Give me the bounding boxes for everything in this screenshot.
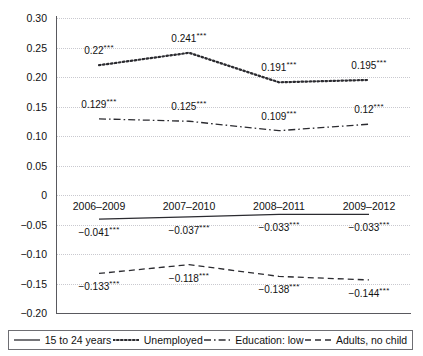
y-axis-tick-label: −0.10 (0, 249, 47, 260)
legend-label: Unemployed (144, 335, 203, 346)
gridline (57, 136, 410, 137)
data-point-label: 0.125*** (171, 102, 206, 112)
x-axis-tick-label: 2009–2012 (343, 201, 396, 212)
legend-item[interactable]: Unemployed (113, 335, 203, 346)
legend-item[interactable]: Adults, no child (305, 335, 407, 346)
data-point-label: −0.118*** (169, 274, 209, 284)
legend-item[interactable]: Education: low (204, 335, 303, 346)
data-point-label: −0.144*** (348, 289, 389, 299)
data-point-label: 0.195*** (351, 61, 386, 71)
data-point-label: −0.033*** (258, 223, 299, 233)
x-axis-tick-label: 2007–2010 (163, 201, 216, 212)
y-axis-tick-label: −0.05 (0, 220, 47, 231)
gridline (57, 18, 410, 19)
legend-label: Education: low (235, 335, 303, 346)
data-point-label: 0.241*** (171, 34, 206, 44)
y-axis-tick-label: −0.15 (0, 279, 47, 290)
data-point-label: −0.033*** (348, 223, 389, 233)
y-axis-line (56, 16, 57, 314)
data-point-label: 0.191*** (261, 63, 296, 73)
data-point-label: 0.109*** (261, 112, 296, 122)
legend-line-icon (14, 335, 40, 345)
y-axis-tick-label: 0.05 (0, 161, 47, 172)
legend-label: 15 to 24 years (45, 335, 112, 346)
x-axis-tick-label: 2006–2009 (73, 201, 126, 212)
gridline (57, 77, 410, 78)
gridline (57, 195, 410, 196)
series-line (99, 265, 369, 280)
series-line (99, 119, 369, 131)
legend-line-icon (204, 335, 230, 345)
chart-figure: 0.300.250.200.150.100.050−0.05−0.10−0.15… (0, 0, 423, 356)
legend-line-icon (305, 335, 331, 345)
y-axis-tick-label: 0.15 (0, 102, 47, 113)
data-point-label: −0.041*** (78, 228, 119, 238)
legend-line-icon (113, 335, 139, 345)
y-axis-tick-label: −0.20 (0, 308, 47, 319)
series-line (99, 214, 369, 219)
series-lines (0, 0, 423, 356)
data-point-label: −0.138*** (258, 285, 299, 295)
data-point-label: 0.12*** (354, 105, 384, 115)
data-point-label: 0.22*** (84, 46, 114, 56)
legend-item[interactable]: 15 to 24 years (14, 335, 112, 346)
x-axis-line (56, 313, 411, 314)
y-axis-tick-label: 0.30 (0, 13, 47, 24)
y-axis-tick-label: 0.10 (0, 131, 47, 142)
data-point-label: −0.133*** (78, 282, 119, 292)
data-point-label: −0.037*** (168, 226, 209, 236)
y-axis-tick-label: 0 (0, 190, 47, 201)
x-axis-tick-label: 2008–2011 (253, 201, 305, 212)
gridline (57, 166, 410, 167)
data-point-label: 0.129*** (81, 100, 116, 110)
y-axis-tick-label: 0.20 (0, 72, 47, 83)
gridline (57, 254, 410, 255)
legend-label: Adults, no child (336, 335, 407, 346)
chart-legend: 15 to 24 yearsUnemployedEducation: lowAd… (8, 330, 413, 350)
y-axis-tick-label: 0.25 (0, 43, 47, 54)
